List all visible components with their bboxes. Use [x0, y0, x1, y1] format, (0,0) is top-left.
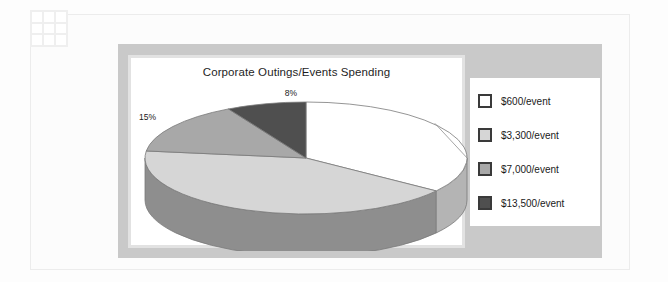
pie-chart: 35%42%15%8%	[131, 58, 468, 251]
chart-container: Corporate Outings/Events Spending 35%42%…	[118, 44, 602, 258]
chart-legend: $600/event $3,300/event $7,000/event $13…	[470, 78, 600, 226]
legend-item[interactable]: $7,000/event	[470, 156, 600, 182]
grid-icon-cell	[32, 35, 42, 45]
chart-plot-area: Corporate Outings/Events Spending 35%42%…	[128, 55, 465, 248]
grid-icon-cell	[56, 35, 66, 45]
grid-icon-cell	[56, 12, 66, 22]
legend-swatch	[478, 162, 492, 176]
grid-icon-cell	[44, 35, 54, 45]
legend-item[interactable]: $3,300/event	[470, 122, 600, 148]
pie-slice-label: 8%	[285, 88, 298, 98]
pie-slice-label: 15%	[139, 112, 156, 122]
grid-icon-cell	[44, 24, 54, 34]
grid-icon-cell	[56, 24, 66, 34]
legend-item-label: $7,000/event	[501, 164, 559, 175]
legend-item-label: $3,300/event	[501, 130, 559, 141]
grid-icon-cell	[32, 24, 42, 34]
grid-icon	[30, 10, 68, 47]
page-root: Corporate Outings/Events Spending 35%42%…	[0, 0, 668, 282]
legend-item[interactable]: $600/event	[470, 88, 600, 114]
legend-swatch	[478, 94, 492, 108]
grid-icon-cell	[44, 12, 54, 22]
legend-swatch	[478, 196, 492, 210]
legend-item-label: $13,500/event	[501, 198, 564, 209]
grid-icon-cell	[32, 12, 42, 22]
legend-item-label: $600/event	[501, 96, 551, 107]
legend-item[interactable]: $13,500/event	[470, 190, 600, 216]
legend-swatch	[478, 128, 492, 142]
pie-chart-svg: 35%42%15%8%	[131, 58, 468, 251]
